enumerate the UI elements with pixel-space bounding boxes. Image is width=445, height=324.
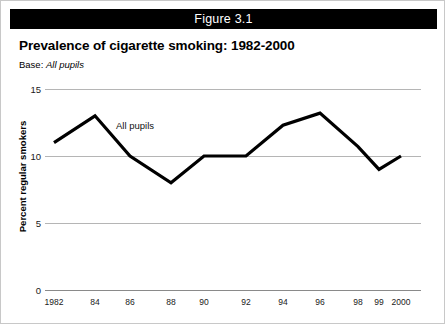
- figure-page: Figure 3.1 Prevalence of cigarette smoki…: [0, 0, 445, 324]
- series-line-all-pupils: [54, 113, 401, 183]
- series-line-svg: [1, 1, 445, 324]
- chart-plot-area: Percent regular smokers 051015 198284868…: [1, 1, 445, 324]
- series-annotation-0: All pupils: [116, 120, 154, 131]
